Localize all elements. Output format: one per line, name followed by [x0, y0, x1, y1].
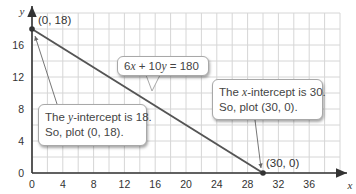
y-tick-label: 8 — [18, 103, 24, 115]
x-tick-label: 8 — [91, 178, 97, 190]
x-intercept-pointer-arrow — [255, 120, 261, 168]
x-tick-label: 0 — [29, 178, 35, 190]
x-tick-label: 16 — [149, 178, 161, 190]
x-tick-label: 36 — [303, 178, 315, 190]
x-tick-label: 28 — [242, 178, 254, 190]
eq-mid: + 10 — [136, 60, 162, 72]
y-callout-post: -intercept is 18. — [73, 111, 152, 123]
eq-rhs: = 180 — [167, 60, 199, 72]
x-callout-post: -intercept is 30. — [247, 86, 326, 98]
x-callout-line-1: The x-intercept is 30. — [219, 85, 316, 100]
y-tick-label: 12 — [12, 71, 24, 83]
y-callout-pre: The — [45, 111, 68, 123]
point-label-x-intercept: (30, 0) — [266, 157, 299, 169]
y-tick-label: 0 — [18, 167, 24, 179]
x-callout-line-2: So, plot (30, 0). — [219, 100, 316, 115]
x-tick-label: 32 — [273, 178, 285, 190]
chart: 048121620242832360481216xy(0, 18)(30, 0)… — [0, 0, 356, 194]
y-tick-label: 4 — [18, 135, 24, 147]
x-tick-label: 4 — [60, 178, 66, 190]
point-marker — [29, 26, 35, 32]
point-label-y-intercept: (0, 18) — [38, 14, 71, 26]
y-callout-line-2: So, plot (0, 18). — [45, 125, 140, 140]
x-tick-label: 20 — [180, 178, 192, 190]
x-axis-label: x — [347, 179, 353, 191]
point-marker — [260, 170, 266, 176]
y-intercept-pointer-arrow — [35, 36, 57, 104]
x-tick-label: 12 — [119, 178, 131, 190]
y-intercept-callout: The y-intercept is 18. So, plot (0, 18). — [38, 104, 147, 146]
equation-callout: 6x + 10y = 180 — [117, 56, 209, 76]
y-callout-line-1: The y-intercept is 18. — [45, 110, 140, 125]
x-callout-pre: The — [219, 86, 242, 98]
y-tick-label: 16 — [12, 39, 24, 51]
x-tick-label: 24 — [211, 178, 223, 190]
y-axis-label: y — [19, 5, 25, 17]
x-intercept-callout: The x-intercept is 30. So, plot (30, 0). — [212, 79, 323, 120]
equation-callout-tail — [146, 75, 160, 91]
